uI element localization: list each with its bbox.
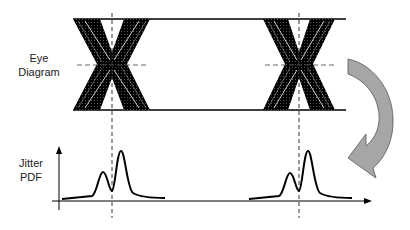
x-axis-arrowhead	[364, 198, 372, 204]
jitter-pdf-curve-left	[62, 151, 165, 199]
crossing-center-lines	[112, 13, 299, 218]
jitter-pdf-curve-right	[249, 151, 352, 199]
curved-arrow-icon	[348, 59, 393, 178]
eye-jitter-diagram	[0, 0, 410, 230]
y-axis-arrowhead	[56, 146, 62, 154]
